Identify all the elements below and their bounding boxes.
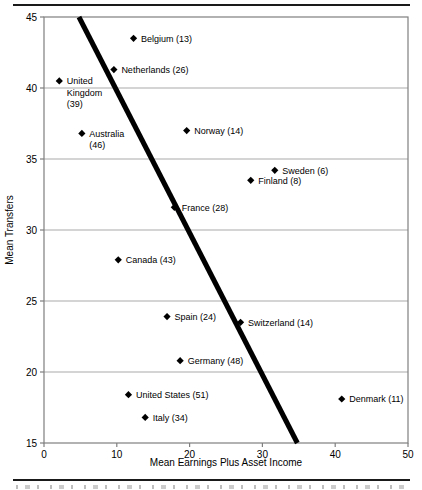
data-point-denmark <box>338 395 345 402</box>
y-tick-label-45: 45 <box>26 12 38 23</box>
axis-ticks <box>40 17 408 447</box>
data-point-norway <box>183 127 190 134</box>
y-tick-label-25: 25 <box>26 296 38 307</box>
data-point-australia <box>78 130 85 137</box>
point-label-finland: Finland (8) <box>258 176 301 186</box>
x-tick-label-10: 10 <box>111 449 123 460</box>
data-point-italy <box>142 414 149 421</box>
point-label-spain: Spain (24) <box>175 312 217 322</box>
y-tick-label-20: 20 <box>26 367 38 378</box>
point-label-united-states: United States (51) <box>136 390 209 400</box>
point-label-united-kingdom: UnitedKingdom(39) <box>67 76 103 109</box>
point-label-australia: Australia(46) <box>89 129 124 151</box>
data-point-netherlands <box>110 66 117 73</box>
scatter-chart: 1520253035404501020304050 Belgium (13)Ne… <box>0 0 422 490</box>
point-label-france: France (28) <box>182 203 229 213</box>
point-label-canada: Canada (43) <box>126 255 176 265</box>
point-label-switzerland: Switzerland (14) <box>248 318 313 328</box>
data-point-united-states <box>125 391 132 398</box>
y-tick-label-40: 40 <box>26 83 38 94</box>
point-label-sweden: Sweden (6) <box>282 166 328 176</box>
data-point-belgium <box>130 35 137 42</box>
data-point-united-kingdom <box>56 77 63 84</box>
x-tick-label-0: 0 <box>41 449 47 460</box>
point-label-norway: Norway (14) <box>194 126 243 136</box>
x-tick-label-50: 50 <box>402 449 414 460</box>
bottom-rule <box>13 479 410 481</box>
y-tick-label-35: 35 <box>26 154 38 165</box>
x-axis-title: Mean Earnings Plus Asset Income <box>150 457 303 468</box>
point-label-denmark: Denmark (11) <box>349 394 403 404</box>
data-point-sweden <box>271 167 278 174</box>
data-points: Belgium (13)Netherlands (26)UnitedKingdo… <box>56 34 404 423</box>
data-point-germany <box>177 357 184 364</box>
point-label-belgium: Belgium (13) <box>141 34 192 44</box>
y-tick-label-30: 30 <box>26 225 38 236</box>
point-label-italy: Italy (34) <box>153 413 188 423</box>
data-point-spain <box>163 313 170 320</box>
cropped-caption-remnant <box>16 485 404 489</box>
document-figure: 1520253035404501020304050 Belgium (13)Ne… <box>0 0 422 490</box>
data-point-canada <box>115 256 122 263</box>
y-axis-title: Mean Transfers <box>4 195 15 264</box>
data-point-finland <box>247 177 254 184</box>
point-label-netherlands: Netherlands (26) <box>121 65 188 75</box>
x-tick-label-40: 40 <box>330 449 342 460</box>
point-label-germany: Germany (48) <box>188 356 244 366</box>
y-tick-label-15: 15 <box>26 438 38 449</box>
